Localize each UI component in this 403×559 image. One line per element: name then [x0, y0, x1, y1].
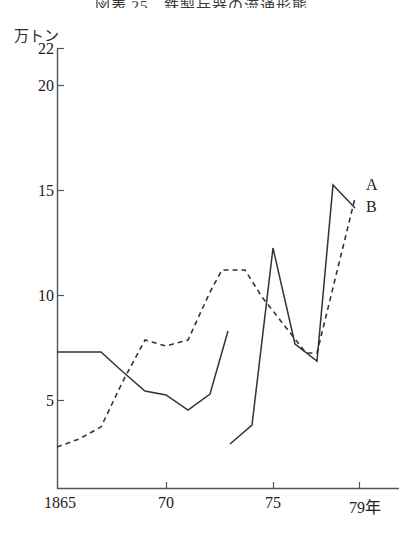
plot-area [0, 0, 403, 559]
series-a-segment-2 [230, 185, 355, 444]
series-a-line [57, 185, 355, 444]
chart-figure: 図表 25 鉄製兵器の流通形態 万トン 22 20 15 10 5 1865 7… [0, 0, 403, 559]
series-b-dashed [57, 198, 355, 447]
axes [57, 48, 399, 489]
series-b-line [57, 198, 355, 447]
series-a-segment-1 [57, 331, 228, 410]
